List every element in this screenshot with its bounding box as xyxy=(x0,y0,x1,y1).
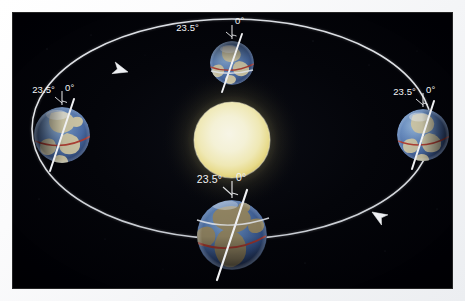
bleed-through-text xyxy=(0,0,465,14)
scanned-page: 23.5° 0° xyxy=(0,0,465,301)
earth-orbit-seasons-figure: 23.5° 0° xyxy=(13,13,452,288)
diagram-canvas: 23.5° 0° xyxy=(13,13,452,288)
tilt-label-top: 23.5° xyxy=(176,22,199,33)
zero-label-bottom: 0° xyxy=(236,171,246,183)
zero-label-right: 0° xyxy=(426,84,435,95)
tilt-label-left: 23.5° xyxy=(32,84,55,95)
zero-label-left: 0° xyxy=(65,82,74,93)
zero-label-top: 0° xyxy=(235,15,244,26)
tilt-label-right: 23.5° xyxy=(393,86,416,97)
tilt-label-bottom: 23.5° xyxy=(197,173,222,185)
